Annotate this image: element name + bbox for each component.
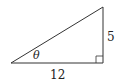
angle-label: θ [33, 49, 40, 62]
base-label: 12 [50, 68, 65, 82]
vertical-side-label: 5 [107, 30, 115, 44]
right-angle-marker [96, 56, 103, 63]
right-triangle-diagram: θ 5 12 [0, 0, 117, 83]
triangle-outline [11, 7, 103, 63]
